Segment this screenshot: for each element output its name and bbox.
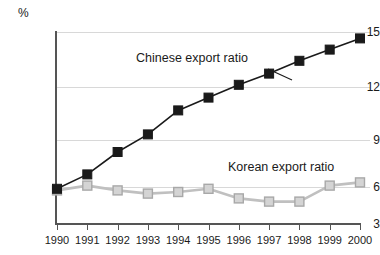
chinese-marker-1996 [234,80,243,89]
series-layer [0,0,380,255]
chinese-series-annotation: Chinese export ratio [136,51,248,65]
chinese-marker-1995 [204,93,213,102]
chinese-marker-1992 [113,148,122,157]
korean-marker-1997 [265,197,274,206]
korean-marker-1998 [295,197,304,206]
korean-marker-1994 [174,188,183,197]
korean-marker-1996 [234,194,243,203]
chinese-marker-1994 [174,106,183,115]
korean-marker-1995 [204,184,213,193]
chinese-marker-1991 [83,170,92,179]
korean-marker-1999 [325,181,334,190]
chart-container: % 15 12 9 6 3 19901991199219931994199519… [0,0,380,255]
korean-marker-1991 [83,181,92,190]
series-korean-export-ratio [53,178,365,206]
korean-series-annotation: Korean export ratio [228,160,334,174]
chinese-marker-1993 [143,130,152,139]
chinese-marker-1999 [325,45,334,54]
korean-marker-1992 [113,186,122,195]
chinese-marker-1998 [295,56,304,65]
korean-marker-2000 [356,178,365,187]
chinese-marker-2000 [356,34,365,43]
korean-marker-1993 [143,189,152,198]
chinese-marker-1990 [53,184,62,193]
